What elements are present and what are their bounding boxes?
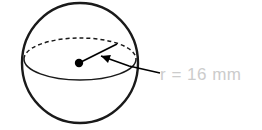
- radius-label: r = 16 mm: [160, 65, 242, 84]
- sphere-figure-svg: r = 16 mm: [0, 0, 262, 130]
- sphere-diagram-canvas: r = 16 mm: [0, 0, 262, 130]
- sphere-center-dot: [75, 59, 83, 67]
